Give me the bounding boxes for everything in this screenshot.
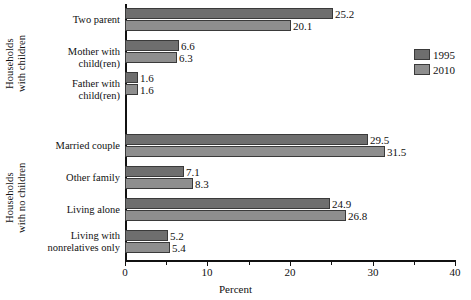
bar-value-living-alone-2010: 26.8 bbox=[348, 211, 367, 222]
bar-value-other-family-2010: 8.3 bbox=[195, 179, 209, 190]
x-tick-35 bbox=[414, 260, 415, 265]
bar-value-father-1995: 1.6 bbox=[140, 73, 154, 84]
category-label-two-parent: Two parent bbox=[73, 14, 120, 26]
x-tick-25 bbox=[331, 260, 332, 265]
x-tick-15 bbox=[249, 260, 250, 265]
legend-label-1995: 1995 bbox=[433, 49, 455, 61]
x-tick-label-0: 0 bbox=[110, 266, 140, 278]
group-label-no-children: Households with no children bbox=[4, 136, 28, 260]
bar-married-1995 bbox=[125, 134, 368, 145]
bar-mother-1995 bbox=[125, 40, 179, 51]
bar-value-nonrelatives-2010: 5.4 bbox=[172, 243, 186, 254]
bar-mother-2010 bbox=[125, 52, 177, 63]
x-tick-label-20: 20 bbox=[275, 266, 305, 278]
bar-nonrelatives-1995 bbox=[125, 230, 168, 241]
group-label-with-children: Households with children bbox=[4, 8, 28, 120]
legend: 1995 2010 bbox=[414, 48, 455, 78]
legend-item-1995[interactable]: 1995 bbox=[414, 48, 455, 61]
x-tick-label-40: 40 bbox=[440, 266, 470, 278]
category-label-living-with-nonrelatives: Living with nonrelatives only bbox=[47, 230, 120, 253]
bar-value-mother-2010: 6.3 bbox=[179, 53, 193, 64]
category-label-other-family: Other family bbox=[66, 172, 120, 184]
bar-value-other-family-1995: 7.1 bbox=[186, 167, 200, 178]
bar-married-2010 bbox=[125, 146, 385, 157]
bar-value-living-alone-1995: 24.9 bbox=[332, 199, 351, 210]
bar-value-mother-1995: 6.6 bbox=[181, 41, 195, 52]
x-tick-label-30: 30 bbox=[358, 266, 388, 278]
legend-swatch-1995-icon bbox=[414, 49, 430, 60]
bar-value-two-parent-1995: 25.2 bbox=[335, 9, 354, 20]
bar-father-1995 bbox=[125, 72, 138, 83]
bar-living-alone-1995 bbox=[125, 198, 330, 209]
x-tick-5 bbox=[166, 260, 167, 265]
bar-other-family-2010 bbox=[125, 178, 193, 189]
bar-other-family-1995 bbox=[125, 166, 184, 177]
category-label-mother-with-children: Mother with child(ren) bbox=[68, 46, 120, 69]
bar-living-alone-2010 bbox=[125, 210, 346, 221]
x-tick-label-10: 10 bbox=[192, 266, 222, 278]
category-label-father-with-children: Father with child(ren) bbox=[72, 78, 120, 101]
x-axis-title: Percent bbox=[0, 283, 471, 295]
bar-father-2010 bbox=[125, 84, 138, 95]
legend-label-2010: 2010 bbox=[433, 64, 455, 76]
legend-item-2010[interactable]: 2010 bbox=[414, 63, 455, 76]
legend-swatch-2010-icon bbox=[414, 64, 430, 75]
bar-value-two-parent-2010: 20.1 bbox=[293, 21, 312, 32]
bar-two-parent-2010 bbox=[125, 20, 291, 31]
bar-value-father-2010: 1.6 bbox=[140, 85, 154, 96]
bar-chart: Households with children Households with… bbox=[0, 0, 471, 300]
category-label-column: Two parent Mother with child(ren) Father… bbox=[28, 0, 120, 272]
bar-nonrelatives-2010 bbox=[125, 242, 170, 253]
bar-value-married-2010: 31.5 bbox=[387, 147, 406, 158]
bar-value-married-1995: 29.5 bbox=[370, 135, 389, 146]
bar-value-nonrelatives-1995: 5.2 bbox=[170, 231, 184, 242]
category-label-married-couple: Married couple bbox=[56, 140, 120, 152]
bar-two-parent-1995 bbox=[125, 8, 333, 19]
category-label-living-alone: Living alone bbox=[67, 204, 120, 216]
